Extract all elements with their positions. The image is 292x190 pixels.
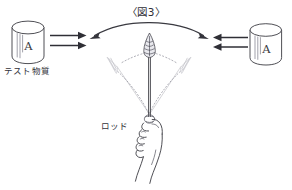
left-cylinder-letter: A (23, 39, 33, 53)
right-cylinder: A (250, 24, 282, 65)
arrow-right-2 (213, 43, 248, 50)
right-cylinder-top (250, 24, 282, 37)
hand-thumb-crease (152, 124, 159, 128)
swing-path-left (115, 69, 149, 114)
influence-arrows-right (213, 34, 248, 51)
hand-inner-contour (135, 157, 143, 181)
rod-ghost-right (150, 57, 191, 113)
swing-arc-head-left (90, 32, 101, 39)
arrow-left-2 (50, 42, 87, 49)
rod-ghost-left-shaft (117, 67, 149, 114)
arrow-right-1 (213, 34, 248, 41)
figure-illustration: A A (0, 0, 292, 190)
hand-palm-crease (152, 150, 156, 165)
hand-gripping-rod (135, 119, 162, 183)
figure-canvas: 〈図3〉 A A (0, 0, 292, 190)
left-cylinder: A (12, 21, 44, 64)
rod-ghost-left (107, 57, 149, 113)
hand-outer-contour (150, 134, 162, 183)
hand-fingers (136, 130, 146, 158)
swing-arc-head-right (198, 32, 209, 39)
influence-arrows-left (50, 32, 87, 49)
arrow-left-1 (50, 32, 87, 39)
left-cylinder-top (12, 21, 44, 34)
label-test-substance: テスト物質 (4, 64, 50, 76)
rod-ghost-right-shaft (150, 67, 181, 114)
label-rod: ロッド (101, 119, 129, 131)
right-cylinder-letter: A (261, 42, 271, 56)
dowsing-rod (144, 33, 156, 123)
hand-index-top (142, 123, 149, 131)
